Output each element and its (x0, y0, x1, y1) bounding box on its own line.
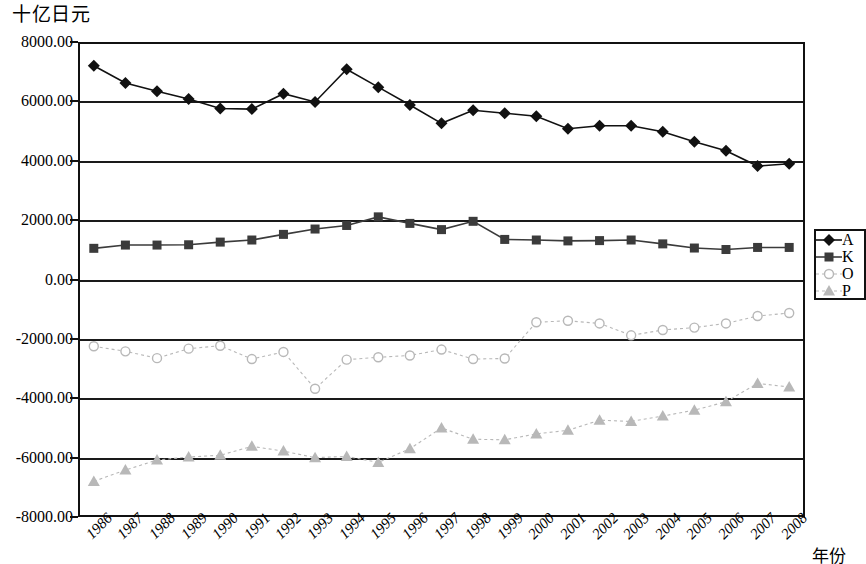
data-point (119, 77, 131, 89)
legend-item-O[interactable]: O (816, 266, 864, 282)
data-point (184, 344, 193, 353)
data-point (594, 414, 606, 425)
data-point (500, 235, 509, 244)
data-point (720, 396, 732, 407)
data-point (785, 309, 794, 318)
data-point (216, 341, 225, 350)
legend-label: K (842, 249, 854, 265)
data-point (405, 351, 414, 360)
data-point (500, 354, 509, 363)
y-tick-label: 6000.00 (0, 93, 78, 109)
data-point (595, 236, 604, 245)
data-point (785, 243, 794, 252)
data-point (341, 450, 353, 461)
y-tick-mark (70, 397, 78, 399)
data-point (214, 103, 226, 115)
data-point (279, 230, 288, 239)
y-tick-label: 0.00 (0, 272, 78, 288)
x-axis-title: 年份 (812, 542, 846, 564)
data-point (467, 433, 479, 444)
data-point (690, 323, 699, 332)
y-tick-mark (70, 279, 78, 281)
data-point (372, 456, 384, 467)
data-point (499, 107, 511, 119)
y-tick-mark (70, 516, 78, 518)
series-K (89, 212, 793, 254)
data-point (467, 104, 479, 116)
data-point (151, 454, 163, 465)
data-point (627, 331, 636, 340)
data-point (721, 245, 730, 254)
y-tick-mark (70, 41, 78, 43)
data-point (532, 236, 541, 245)
chart-series-layer (78, 42, 805, 517)
y-tick-label: -4000.00 (0, 390, 78, 406)
data-point (753, 243, 762, 252)
y-tick-label: 4000.00 (0, 153, 78, 169)
data-point (311, 384, 320, 393)
data-point (436, 422, 448, 433)
data-point (437, 345, 446, 354)
series-line (94, 66, 789, 166)
data-point (246, 440, 258, 451)
data-point (720, 145, 732, 157)
y-tick-mark (70, 457, 78, 459)
series-P (88, 377, 795, 485)
data-point (688, 136, 700, 148)
data-point (469, 217, 478, 226)
data-point (247, 236, 256, 245)
data-point (342, 221, 351, 230)
data-point (216, 238, 225, 247)
y-axis-title: 十亿日元 (12, 2, 90, 26)
data-point (89, 244, 98, 253)
data-point (342, 355, 351, 364)
legend: AKOP (814, 229, 866, 300)
series-O (89, 309, 793, 394)
data-point (374, 353, 383, 362)
data-point (753, 312, 762, 321)
legend-marker-icon (816, 283, 842, 299)
data-point (595, 319, 604, 328)
data-point (89, 342, 98, 351)
data-point (184, 240, 193, 249)
data-point (532, 318, 541, 327)
data-point (657, 126, 669, 138)
legend-label: P (842, 283, 851, 299)
legend-label: A (842, 232, 854, 248)
data-point (404, 443, 416, 454)
data-point (594, 120, 606, 132)
data-point (563, 316, 572, 325)
legend-item-P[interactable]: P (816, 283, 864, 299)
legend-marker-icon (816, 266, 842, 282)
data-point (783, 158, 795, 170)
data-point (374, 212, 383, 221)
data-point (405, 219, 414, 228)
y-tick-label: 2000.00 (0, 212, 78, 228)
y-tick-label: 8000.00 (0, 34, 78, 50)
data-point (437, 225, 446, 234)
data-point (121, 241, 130, 250)
data-point (246, 103, 258, 115)
data-point (153, 241, 162, 250)
data-point (658, 325, 667, 334)
data-point (752, 160, 764, 172)
data-point (752, 377, 764, 388)
data-point (436, 117, 448, 129)
legend-item-K[interactable]: K (816, 249, 864, 265)
data-point (721, 319, 730, 328)
legend-item-A[interactable]: A (816, 232, 864, 248)
data-point (183, 93, 195, 105)
legend-label: O (842, 266, 854, 282)
data-point (783, 381, 795, 392)
legend-marker-icon (816, 249, 842, 265)
legend-marker-icon (816, 232, 842, 248)
data-point (247, 355, 256, 364)
data-point (311, 225, 320, 234)
data-point (627, 236, 636, 245)
y-tick-label: -2000.00 (0, 331, 78, 347)
data-point (279, 347, 288, 356)
y-tick-label: -6000.00 (0, 450, 78, 466)
data-point (88, 60, 100, 72)
series-A (88, 60, 795, 172)
